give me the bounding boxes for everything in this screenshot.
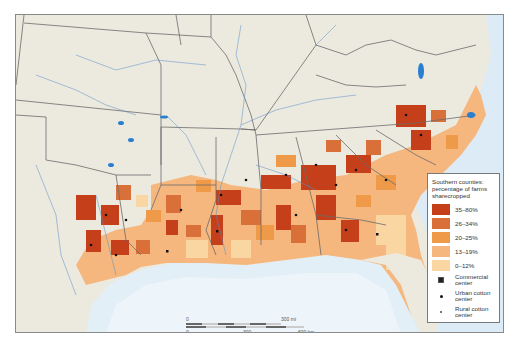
legend-label: 35–80% — [455, 206, 478, 213]
swatch-26-34 — [432, 218, 450, 229]
legend-class-4: 13–19% — [432, 244, 495, 258]
commercial-center-icon — [438, 277, 444, 283]
legend-label: 13–19% — [455, 248, 478, 255]
legend-class-3: 20–25% — [432, 230, 495, 244]
scale-km-start: 0 — [186, 329, 189, 333]
legend-label: 0–12% — [455, 262, 474, 269]
rural-cotton-center-icon — [440, 311, 442, 313]
legend-class-1: 35–80% — [432, 202, 495, 216]
legend-label: 26–34% — [455, 220, 478, 227]
scale-mi-start: 0 — [186, 316, 189, 322]
swatch-13-19 — [432, 246, 450, 257]
scale-km-end: 600 km — [298, 329, 314, 333]
legend-label: 20–25% — [455, 234, 478, 241]
swatch-35-80 — [432, 204, 450, 215]
urban-cotton-center-icon — [440, 295, 443, 298]
legend-label: Commercial center — [455, 274, 495, 287]
legend-marker-rural: Rural cotton center — [432, 304, 495, 320]
legend: Southern counties: percentage of farms s… — [427, 173, 500, 323]
swatch-0-12 — [432, 260, 450, 271]
scale-mi-end: 300 mi — [281, 316, 296, 322]
legend-class-5: 0–12% — [432, 258, 495, 272]
scale-km-mid: 300 — [243, 329, 251, 333]
scale-bar: 0 300 mi 0 300 600 km — [186, 316, 326, 333]
legend-class-2: 26–34% — [432, 216, 495, 230]
legend-marker-urban: Urban cotton center — [432, 288, 495, 304]
legend-label: Rural cotton center — [455, 306, 495, 319]
legend-label: Urban cotton center — [455, 290, 495, 303]
legend-title: Southern counties: percentage of farms s… — [432, 178, 495, 199]
swatch-20-25 — [432, 232, 450, 243]
legend-marker-commercial: Commercial center — [432, 272, 495, 288]
